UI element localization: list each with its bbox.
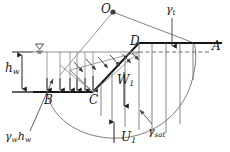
- pore-pressure-distribution: [47, 76, 93, 90]
- label-slope-top-point-d: D: [130, 35, 140, 47]
- label-gamma-w-base: γ: [5, 130, 12, 143]
- label-gamma-t-subscript: t: [173, 8, 176, 17]
- label-weight-subscript: 1: [129, 79, 134, 88]
- label-water-head-subscript: w: [13, 67, 20, 76]
- label-uplift-base: U: [121, 130, 131, 144]
- unit-weight-sat-leader: [140, 110, 152, 124]
- label-hw-subscript: w: [25, 135, 31, 144]
- label-weight: W1: [117, 74, 134, 88]
- label-water-head-base: h: [5, 61, 13, 75]
- label-gamma-sat-base: γ: [148, 125, 155, 138]
- label-water-pressure: γwhw: [5, 131, 31, 143]
- label-water-head: hw: [5, 62, 20, 76]
- label-hw-base: h: [18, 130, 25, 143]
- label-center-of-rotation: O: [101, 3, 111, 15]
- label-point-b: B: [44, 94, 53, 106]
- label-uplift-subscript: 1: [131, 136, 136, 145]
- label-unit-weight-total: γt: [166, 4, 176, 16]
- slice-lines: [101, 43, 193, 134]
- failure-arc: [47, 43, 196, 138]
- label-unit-weight-sat: γsat: [148, 126, 166, 138]
- label-weight-base: W: [117, 73, 129, 87]
- label-gamma-t-base: γ: [166, 3, 173, 16]
- slope-normal-pressure-arrows: [74, 53, 139, 72]
- label-gamma-sat-subscript: sat: [155, 130, 166, 139]
- label-uplift: U1: [121, 131, 136, 145]
- slope-stability-figure: O A D C B hw W1 U1 γt γsat γwhw: [0, 0, 230, 152]
- figure-canvas: [0, 0, 230, 152]
- label-crest-point-a: A: [212, 40, 221, 52]
- label-slope-toe-point-c: C: [89, 94, 98, 106]
- center-of-rotation-point: [110, 9, 115, 14]
